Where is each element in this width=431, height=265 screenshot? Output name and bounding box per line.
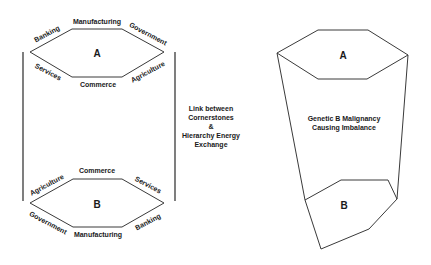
b-side-top-right: Services bbox=[134, 175, 163, 195]
link-text-line3: & bbox=[208, 123, 213, 130]
a-side-top: Manufacturing bbox=[73, 18, 121, 26]
link-text-line5: Exchange bbox=[194, 141, 227, 149]
link-text-line2: Cornerstones bbox=[188, 114, 234, 121]
hexagon-b-label: B bbox=[93, 199, 100, 210]
a-side-bottom-left: Services bbox=[34, 62, 63, 82]
link-description: Link between Cornerstones & Hierarchy En… bbox=[182, 105, 240, 149]
malignancy-caption-line2: Causing Imbalance bbox=[312, 124, 376, 132]
right-hexagon-a-label: A bbox=[339, 50, 346, 61]
right-shape-b bbox=[305, 180, 397, 249]
b-side-bottom-left: Government bbox=[28, 210, 68, 236]
b-side-bottom: Manufacturing bbox=[74, 231, 122, 239]
malignancy-caption-line1: Genetic B Malignancy bbox=[308, 115, 381, 123]
hexagon-a-label: A bbox=[93, 48, 100, 59]
left-diagram: A Manufacturing Banking Government Servi… bbox=[23, 18, 175, 239]
right-shape-b-label: B bbox=[340, 200, 347, 211]
right-right-side-line bbox=[397, 55, 408, 199]
b-side-top: Commerce bbox=[79, 167, 115, 174]
b-side-bottom-right: Banking bbox=[134, 212, 162, 232]
link-text-line4: Hierarchy Energy bbox=[182, 132, 240, 140]
link-text-line1: Link between bbox=[189, 105, 233, 112]
a-side-bottom: Commerce bbox=[80, 81, 116, 88]
a-side-top-left: Banking bbox=[33, 24, 61, 44]
right-diagram: A B Genetic B Malignancy Causing Imbalan… bbox=[277, 30, 408, 249]
a-side-bottom-right: Agriculture bbox=[130, 60, 167, 85]
right-left-side-line bbox=[277, 53, 305, 200]
diagram-canvas: A Manufacturing Banking Government Servi… bbox=[0, 0, 431, 265]
